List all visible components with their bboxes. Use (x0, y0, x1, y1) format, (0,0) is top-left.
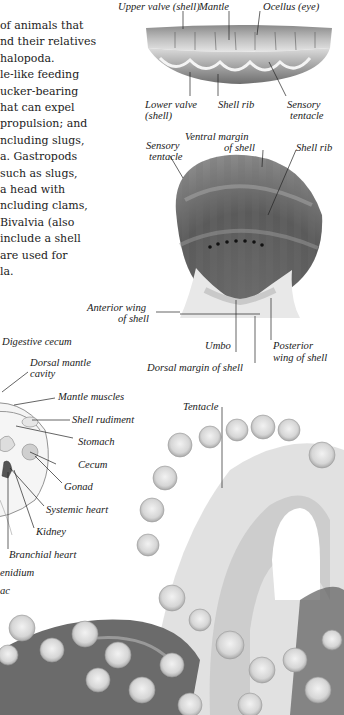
label-posterior-wing: Posterior (273, 340, 313, 351)
label-tentacle: Tentacle (183, 401, 219, 412)
label-stomach: Stomach (78, 436, 114, 447)
label-ventral-margin: Ventral margin (185, 131, 248, 142)
label-gonad: Gonad (64, 481, 93, 492)
intro-line: nd their relatives (0, 34, 172, 50)
label-lower-valve: Lower valve (145, 99, 197, 110)
label-systemic-heart: Systemic heart (46, 504, 108, 515)
label-ocellus: Ocellus (eye) (263, 1, 319, 12)
label-sensory-tentacle-top-line2: tentacle (149, 151, 183, 162)
scallop-side-view-illustration (146, 11, 332, 96)
intro-line: Bivalvia (also (0, 215, 172, 231)
label-sensory-tentacle-top: Sensory (146, 140, 180, 151)
label-shell-rib-side: Shell rib (218, 99, 254, 110)
intro-line: halopoda. (0, 51, 172, 67)
intro-line: a head with (0, 182, 172, 198)
label-shell-rudiment: Shell rudiment (72, 414, 134, 425)
label-dorsal-mantle-cavity-line2: cavity (30, 368, 55, 379)
intro-line: le-like feeding (0, 67, 172, 83)
scallop-top-view-illustration (156, 150, 322, 363)
label-posterior-wing-line2: wing of shell (273, 352, 327, 363)
label-digestive-cecum: Digestive cecum (2, 336, 72, 347)
label-upper-valve: Upper valve (shell) (118, 1, 200, 12)
label-kidney: Kidney (36, 526, 66, 537)
intro-line: include a shell (0, 231, 172, 247)
label-umbo: Umbo (205, 340, 231, 351)
label-ctenidium: enidium (0, 567, 34, 578)
label-dorsal-mantle-cavity: Dorsal mantle (30, 357, 91, 368)
intro-line: ncluding clams, (0, 198, 172, 214)
label-sensory-tentacle-side: Sensory (287, 99, 321, 110)
octopus-arm-illustration (0, 407, 344, 715)
intro-line: a. Gastropods (0, 149, 172, 165)
label-anterior-wing: Anterior wing (87, 302, 146, 313)
label-lower-valve-line2: (shell) (145, 110, 172, 121)
intro-line: such as slugs, (0, 166, 172, 182)
intro-line: la. (0, 264, 172, 280)
intro-line: of animals that (0, 18, 172, 34)
label-sensory-tentacle-side-line2: tentacle (290, 110, 324, 121)
label-mantle-muscles: Mantle muscles (58, 391, 124, 402)
intro-line: are used for (0, 248, 172, 264)
label-mantle: Mantle (199, 1, 229, 12)
label-anterior-wing-line2: of shell (118, 313, 149, 324)
intro-line: ucker-bearing (0, 84, 172, 100)
label-shell-rib-top: Shell rib (296, 142, 332, 153)
label-ink-sac: ac (0, 585, 10, 596)
label-dorsal-margin: Dorsal margin of shell (147, 362, 243, 373)
label-branchial-heart: Branchial heart (9, 549, 76, 560)
label-cecum: Cecum (78, 459, 107, 470)
label-ventral-margin-line2: of shell (224, 142, 255, 153)
